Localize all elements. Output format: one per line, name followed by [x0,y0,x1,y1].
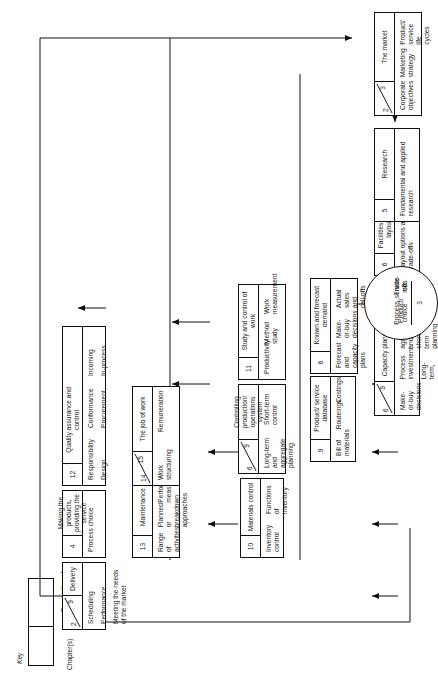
box-item: Range of activities [157,533,181,552]
box-number-second: 9 [373,386,393,390]
box-header: 10 Materials control [241,479,261,557]
box-number-first: 14 [134,475,154,482]
box-item: Productivity [263,350,271,374]
box-number: 4 [63,535,82,557]
box-title: The job of work [133,387,152,451]
box-header: 4 Making the products, providing the ser… [63,491,83,557]
box-item: Product/ service life cycles [399,18,431,45]
box-number: 13 [133,535,152,557]
box-item: Forecast and capacity plans [335,344,367,368]
key-box [28,578,54,666]
box-item: Marketing strategy [399,51,415,78]
box-item: Routeings [335,409,343,430]
box-header: 6 9 Controlling production/ operations s… [239,385,259,473]
box-title: Maintenance [133,479,152,535]
box-materials-control[interactable]: 10 Materials control Inventory control F… [240,478,284,558]
box-item: Performance measures [157,484,173,503]
box-item: Method study [263,320,279,344]
key-label: Key [16,653,23,664]
box-header: 2 3 The market [375,13,395,115]
box-body: Forecast and capacity plans Make-or-buy … [331,279,357,373]
box-item: Fundamental and applied research [399,134,415,216]
box-item: Make-or-buy decisions [399,385,423,410]
box-study-and-control-of-work[interactable]: 11 Study and control of work Productivit… [238,284,286,380]
box-delivery[interactable]: 2 9 Delivery Scheduling Performance Meet… [62,562,106,630]
box-item: Meeting the needs of the market [112,568,128,624]
box-item: Design [100,436,108,480]
box-item: Performance [100,568,108,624]
box-number-first: 2 [376,108,396,112]
box-number: 11 [239,357,258,379]
box-body: Inventory control Functions of inventory [261,479,283,557]
box-number-second: 3 [373,86,393,90]
box-body: Fundamental and applied research [395,129,419,221]
box-item: Inventory control [265,522,281,552]
box-item: In-process [100,332,108,376]
box-header: 13 Maintenance [133,479,153,557]
box-item: Work structuring [157,440,173,480]
box-header: 9 Product/ service database [311,377,331,461]
box-title: Controlling production/ operations syste… [239,385,258,439]
box-body: Scheduling Performance Meeting the needs… [83,563,105,629]
box-the-market[interactable]: 2 3 The market Corporate objectives Mark… [374,12,422,116]
box-quality-assurance-and-control[interactable]: 12 Quality assurance and control Respons… [62,326,106,486]
box-number-first: 2 [64,622,84,626]
box-product-service-database[interactable]: 9 Product/ service database Bill of mate… [310,376,356,462]
box-body: Work structuring Remuneration [153,387,179,485]
box-title: Materials control [241,479,260,535]
box-title: Known and forecast demand [311,279,330,351]
central-node-process-choice: Process choice [393,297,409,329]
box-item: Process investment [399,355,415,380]
box-item: Procurement [100,384,108,428]
diagram-stage: Key Chapter(s) Description of the tasks … [0,0,438,674]
box-research[interactable]: 5 Research Fundamental and applied resea… [374,128,420,222]
box-item: Conformance [87,384,95,428]
box-number: 14 15 [133,451,152,485]
box-item: Bill of materials [335,435,351,456]
box-title: Making the products, providing the servi… [63,491,82,535]
box-making-the-products[interactable]: 4 Making the products, providing the ser… [62,490,106,558]
central-node-trade-offs: Trade-offs [393,275,409,297]
box-known-and-forecast-demand[interactable]: 6 Known and forecast demand Forecast and… [310,278,358,374]
box-title: Product/ service database [311,377,330,439]
box-number: 6 9 [375,381,394,415]
box-number: 9 [311,439,330,461]
box-title: The market [375,13,394,81]
box-number: 2 9 [63,595,82,629]
box-item: Make-or-buy decisions [335,314,359,338]
box-body: Productivity Method study Work measureme… [259,285,285,379]
box-item: Remuneration [157,392,165,432]
box-header: 6 Known and forecast demand [311,279,331,373]
box-number-second: 9 [61,600,81,604]
box-body: Bill of materials Routeings Costings [331,377,355,461]
box-the-job-of-work[interactable]: 14 15 The job of work Work structuring R… [132,386,180,486]
central-node-number: 3 [411,281,427,325]
box-item: Work measurement [263,290,279,314]
box-title: Quality assurance and control [63,377,82,463]
box-maintenance[interactable]: 13 Maintenance Range of activities Plann… [132,478,180,558]
central-node[interactable]: Product/ service mix Process choice Trad… [364,266,438,340]
box-header: 2 9 Delivery [63,563,83,629]
box-item: Scheduling [87,568,95,624]
box-number: 6 [311,351,330,373]
box-number-second: 15 [131,456,151,463]
box-header: 5 Research [375,129,395,221]
box-header: 14 15 The job of work [133,387,153,485]
box-item: Responsibility [87,436,95,480]
box-item: Actual sales and call-offs [335,284,367,308]
box-body: Long-term and aggregate planning Short-t… [259,385,285,473]
box-title: Delivery [63,563,82,595]
box-item: Planned or breakdown approaches [157,509,189,528]
box-item: Process choice [87,496,95,552]
box-controlling-production[interactable]: 6 9 Controlling production/ operations s… [238,384,286,474]
box-body: Range of activities Planned or breakdown… [153,479,179,557]
box-header: 12 Quality assurance and control [63,327,83,485]
box-item: Costings [335,382,343,403]
box-number: 12 [63,463,82,485]
box-header: 11 Study and control of work [239,285,259,379]
box-title: Study and control of work [239,285,258,357]
box-item: Short-term control [263,390,279,425]
box-number: 10 [241,535,260,557]
box-item: Long-term and aggregate planning [263,433,295,468]
box-item: Corporate objectives [399,83,415,110]
